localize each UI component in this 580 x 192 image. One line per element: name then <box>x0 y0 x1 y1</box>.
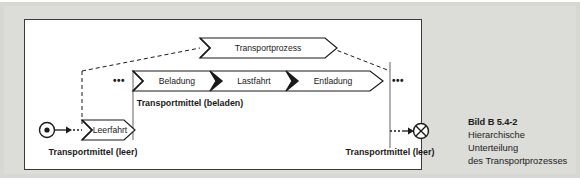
dashed-left-diagonal <box>82 48 200 71</box>
chevron-beladung-label: Beladung <box>159 76 196 86</box>
middle-level-right-ellipsis: ••• <box>392 75 404 86</box>
middle-level-chevron-band: Beladung Lastfahrt Entladung ••• ••• Tra… <box>113 71 404 108</box>
end-resource-label: Transportmittel (leer) <box>346 147 435 157</box>
end-node[interactable] <box>414 124 429 139</box>
chevron-leerfahrt-label: Leerfahrt <box>93 125 128 135</box>
chevron-transportprozess-label: Transportprozess <box>235 43 302 53</box>
figure-caption-line-2: Unterteilung <box>468 143 580 153</box>
figure-caption-line-1: Hierarchische <box>468 130 580 140</box>
start-node-inner-dot <box>44 127 49 132</box>
start-node[interactable] <box>40 123 55 138</box>
end-arrow <box>390 128 414 135</box>
start-arrow-head <box>66 127 72 134</box>
chevron-entladung-label: Entladung <box>314 76 353 86</box>
start-arrow <box>55 127 82 134</box>
middle-level-resource-label: Transportmittel (beladen) <box>137 98 244 108</box>
start-resource-label: Transportmittel (leer) <box>49 147 138 157</box>
chevron-leerfahrt[interactable]: Leerfahrt <box>82 120 135 140</box>
figure-caption-title: Bild B 5.4-2 <box>468 117 580 127</box>
middle-level-left-ellipsis: ••• <box>113 75 125 86</box>
dashed-right-diagonal <box>331 48 390 71</box>
figure-caption-line-3: des Transportprozesses <box>468 156 580 166</box>
chevron-entladung[interactable]: Entladung <box>314 76 353 86</box>
chevron-transportprozess[interactable]: Transportprozess <box>200 38 337 58</box>
chevron-lastfahrt-label: Lastfahrt <box>237 76 271 86</box>
figure-container: Transportprozess Beladung Lastfahrt Entl… <box>0 0 580 192</box>
